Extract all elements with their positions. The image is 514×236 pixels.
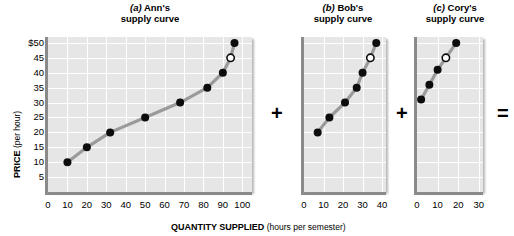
x-axis-title: QUANTITY SUPPLIED (hours per semester): [171, 222, 346, 232]
x-axis-title-bold: QUANTITY SUPPLIED: [171, 222, 264, 232]
data-point: [452, 39, 460, 47]
x-axis-title-rest: (hours per semester): [264, 222, 345, 232]
x-tick-label: 30: [468, 200, 490, 209]
x-tick-label: 10: [427, 200, 449, 209]
data-point: [425, 81, 433, 89]
x-tick-label: 0: [406, 200, 428, 209]
supply-curve-figure: (a) Ann's supply curve PRICE (per hour) …: [0, 0, 514, 236]
data-point: [417, 96, 425, 104]
data-point: [434, 66, 442, 74]
operator-equals: =: [497, 103, 509, 123]
x-tick-label: 20: [447, 200, 469, 209]
data-point-open: [442, 54, 449, 61]
